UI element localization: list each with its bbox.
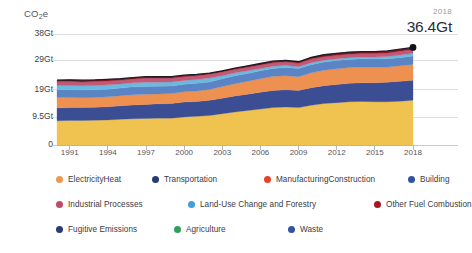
legend-color-swatch-icon xyxy=(56,176,63,183)
x-axis-tick-label: 2012 xyxy=(328,148,346,157)
x-axis-tick-label: 1991 xyxy=(61,148,79,157)
legend-color-swatch-icon xyxy=(408,176,415,183)
legend-color-swatch-icon xyxy=(188,201,195,208)
legend-color-swatch-icon xyxy=(374,201,381,208)
legend-item[interactable]: Agriculture xyxy=(174,225,226,234)
legend-item[interactable]: Land-Use Change and Forestry xyxy=(188,200,316,209)
legend-color-swatch-icon xyxy=(174,226,181,233)
x-axis-tick-label: 2018 xyxy=(404,148,422,157)
legend-row: Industrial ProcessesLand-Use Change and … xyxy=(56,192,450,217)
legend-item-label: Land-Use Change and Forestry xyxy=(200,200,316,209)
x-axis-tick-label: 2009 xyxy=(290,148,308,157)
plot-area: 09.5Gt19Gt29Gt38Gt xyxy=(0,0,460,165)
legend-color-swatch-icon xyxy=(264,176,271,183)
x-axis-tick-label: 1994 xyxy=(99,148,117,157)
legend-row: Fugitive EmissionsAgricultureWaste xyxy=(56,217,450,242)
y-axis-tick-label: 19Gt xyxy=(35,84,53,94)
legend-item-label: Building xyxy=(420,175,450,184)
legend-color-swatch-icon xyxy=(56,226,63,233)
legend-row: ElectricityHeatTransportationManufacturi… xyxy=(56,167,450,192)
legend-item[interactable]: Transportation xyxy=(152,175,217,184)
legend-item-label: Other Fuel Combustion xyxy=(386,200,472,209)
legend-item[interactable]: Waste xyxy=(288,225,323,234)
legend-item[interactable]: Other Fuel Combustion xyxy=(374,200,472,209)
legend-item-label: ElectricityHeat xyxy=(68,175,121,184)
y-axis-tick-label: 9.5Gt xyxy=(32,111,53,121)
y-axis-tick-label: 29Gt xyxy=(35,54,53,64)
legend-item[interactable]: ManufacturingConstruction xyxy=(264,175,375,184)
x-axis-tick-label: 2015 xyxy=(366,148,384,157)
legend-item-label: Waste xyxy=(300,225,323,234)
legend-color-swatch-icon xyxy=(152,176,159,183)
legend-item[interactable]: Fugitive Emissions xyxy=(56,225,137,234)
stacked-area-svg xyxy=(0,0,460,165)
x-axis-tick-label: 2006 xyxy=(252,148,270,157)
legend-item[interactable]: Industrial Processes xyxy=(56,200,143,209)
x-axis-tick-label: 1997 xyxy=(137,148,155,157)
x-axis-tick-labels: 1991199419972000200320062009201220152018 xyxy=(0,148,460,164)
x-axis-tick-label: 2000 xyxy=(175,148,193,157)
x-axis-tick-label: 2003 xyxy=(213,148,231,157)
y-axis-tick-label: 38Gt xyxy=(35,28,53,38)
legend-item-label: Agriculture xyxy=(186,225,226,234)
y-axis-tick-labels: 09.5Gt19Gt29Gt38Gt xyxy=(0,0,53,165)
legend-item-label: ManufacturingConstruction xyxy=(276,175,375,184)
chart-legend: ElectricityHeatTransportationManufacturi… xyxy=(0,167,460,242)
legend-item[interactable]: ElectricityHeat xyxy=(56,175,121,184)
legend-item-label: Transportation xyxy=(164,175,217,184)
annotation-marker-dot xyxy=(410,44,417,51)
legend-color-swatch-icon xyxy=(288,226,295,233)
legend-color-swatch-icon xyxy=(56,201,63,208)
legend-item-label: Fugitive Emissions xyxy=(68,225,137,234)
legend-item[interactable]: Building xyxy=(408,175,450,184)
legend-item-label: Industrial Processes xyxy=(68,200,143,209)
